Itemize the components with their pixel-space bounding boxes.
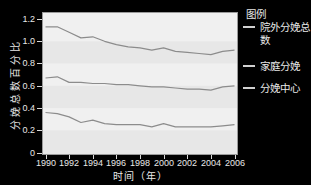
series-line-2 [46, 113, 235, 127]
plot-canvas [43, 13, 237, 154]
chart: 分娩总数百分比 时间（年） 图例 院外分娩总数 家庭分娩 分娩中心 00.20.… [0, 0, 311, 185]
legend-item-label: 分娩中心 [260, 82, 310, 95]
line-swatch-icon [243, 65, 255, 67]
legend-item-birth-center: 分娩中心 [243, 82, 310, 95]
x-axis-title: 时间（年） [42, 168, 238, 183]
y-tick-mark [37, 41, 42, 42]
legend-item-out-of-hospital: 院外分娩总数 [243, 21, 310, 46]
legend-title: 图例 [246, 6, 266, 21]
x-tick-label: 2006 [222, 158, 248, 168]
legend-item-label: 院外分娩总数 [260, 21, 310, 46]
x-tick-label: 1996 [103, 158, 129, 168]
y-tick-label: 0 [0, 148, 35, 158]
y-tick-mark [37, 19, 42, 20]
line-swatch-icon [243, 87, 255, 89]
plot-area [42, 12, 238, 155]
line-swatch-icon [243, 26, 255, 28]
legend: 图例 院外分娩总数 家庭分娩 分娩中心 [243, 0, 311, 185]
y-tick-label: 0.2 [0, 125, 35, 135]
y-tick-label: 1.2 [0, 14, 35, 24]
x-tick-label: 1998 [127, 158, 153, 168]
y-tick-mark [37, 108, 42, 109]
y-tick-label: 0.8 [0, 58, 35, 68]
legend-item-label: 家庭分娩 [260, 60, 310, 73]
y-tick-label: 0.4 [0, 103, 35, 113]
legend-item-home-birth: 家庭分娩 [243, 60, 310, 73]
background-band [43, 130, 237, 154]
x-tick-label: 2002 [174, 158, 200, 168]
x-tick-label: 1992 [56, 158, 82, 168]
y-tick-label: 0.6 [0, 81, 35, 91]
y-tick-label: 1.0 [0, 36, 35, 46]
y-tick-mark [37, 86, 42, 87]
y-tick-mark [37, 130, 42, 131]
y-tick-mark [37, 63, 42, 64]
y-tick-mark [37, 153, 42, 154]
x-tick-label: 2004 [198, 158, 224, 168]
background-band [43, 41, 237, 63]
background-band [43, 86, 237, 108]
